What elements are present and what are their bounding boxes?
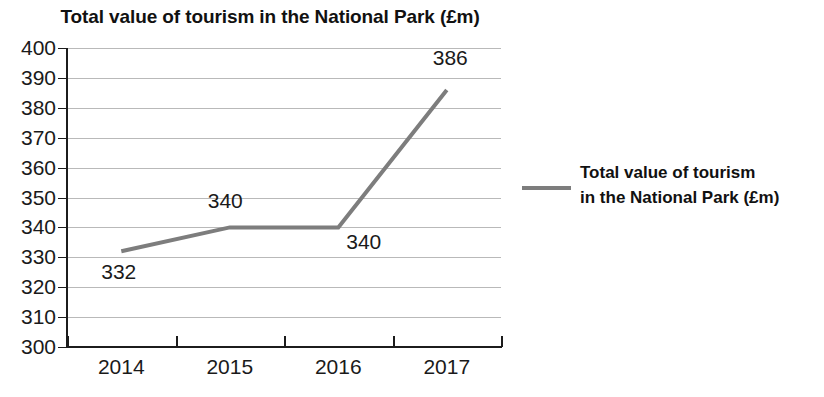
data-point-label: 340 <box>208 190 243 211</box>
y-tick-mark <box>58 198 67 199</box>
y-tick-mark <box>58 347 67 348</box>
y-tick-mark <box>58 287 67 288</box>
series-line-total-value-of-tourism <box>121 90 447 251</box>
line-chart: Total value of tourism in the National P… <box>0 0 824 397</box>
legend-label-line1: Total value of tourism <box>580 160 824 185</box>
legend-swatch-series <box>522 186 571 190</box>
data-point-label: 332 <box>101 261 136 282</box>
y-tick-mark <box>58 48 67 49</box>
y-tick-mark <box>58 138 67 139</box>
y-tick-mark <box>58 78 67 79</box>
data-point-label: 386 <box>433 47 468 68</box>
legend-label: Total value of tourism in the National P… <box>580 160 824 210</box>
y-tick-mark <box>58 168 67 169</box>
y-tick-mark <box>58 257 67 258</box>
data-point-label: 340 <box>346 231 381 252</box>
y-tick-mark <box>58 108 67 109</box>
legend: Total value of tourism in the National P… <box>520 160 820 222</box>
y-tick-mark <box>58 317 67 318</box>
legend-label-line2: in the National Park (£m) <box>580 185 824 210</box>
y-tick-mark <box>58 227 67 228</box>
